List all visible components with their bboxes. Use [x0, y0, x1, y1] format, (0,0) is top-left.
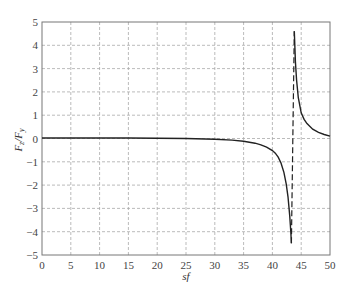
- y-tick-label: −1: [26, 156, 38, 168]
- x-tick-label: 5: [68, 259, 74, 271]
- y-tick-label: −3: [26, 202, 38, 214]
- x-axis-label: sf: [182, 270, 191, 282]
- y-tick-label: −5: [26, 249, 38, 261]
- x-tick-label: 50: [325, 259, 337, 271]
- x-tick-label: 0: [39, 259, 45, 271]
- x-tick-label: 45: [296, 259, 308, 271]
- series-line: [42, 138, 291, 243]
- y-tick-label: 0: [33, 133, 39, 145]
- x-tick-label: 35: [238, 259, 250, 271]
- series-line: [294, 31, 330, 136]
- x-tick-label: 15: [123, 259, 135, 271]
- y-axis-label: Fz/Fy: [12, 128, 26, 153]
- y-tick-label: 4: [33, 39, 39, 51]
- x-tick-label: 30: [209, 259, 221, 271]
- y-tick-label: 2: [33, 86, 39, 98]
- x-tick-label: 20: [152, 259, 164, 271]
- x-tick-label: 10: [94, 259, 106, 271]
- y-tick-label: −2: [26, 179, 38, 191]
- y-axis-ticks: −5−4−3−2−1012345: [26, 16, 38, 261]
- y-tick-label: 1: [33, 109, 39, 121]
- x-tick-label: 40: [267, 259, 279, 271]
- chart: 05101520253035404550 −5−4−3−2−1012345 sf…: [0, 0, 349, 296]
- y-tick-label: 5: [33, 16, 39, 28]
- y-tick-label: 3: [33, 63, 39, 75]
- y-tick-label: −4: [26, 226, 38, 238]
- asymptote-line: [291, 31, 294, 243]
